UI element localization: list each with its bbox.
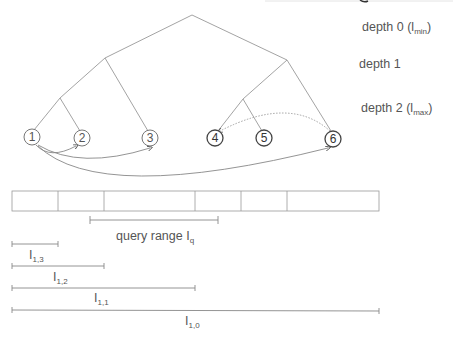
interval-label-1-0: I1,0 bbox=[185, 314, 200, 330]
svg-text:2: 2 bbox=[79, 131, 86, 145]
query-range-bar bbox=[90, 216, 218, 224]
node-4: 4 bbox=[207, 130, 223, 146]
svg-text:1: 1 bbox=[29, 130, 36, 144]
interval-label-1-2: I1,2 bbox=[53, 270, 68, 286]
arrow-1-to-2 bbox=[36, 145, 76, 153]
svg-text:6: 6 bbox=[330, 132, 337, 146]
svg-text:3: 3 bbox=[147, 131, 154, 145]
interval-label-1-3: I1,3 bbox=[29, 248, 44, 264]
arrow-6-to-4 bbox=[220, 113, 330, 131]
depth-1-label: depth 1 bbox=[359, 57, 401, 71]
node-1: 1 bbox=[24, 129, 40, 145]
svg-text:4: 4 bbox=[212, 131, 219, 145]
node-6: 6 bbox=[325, 131, 341, 147]
node-2: 2 bbox=[74, 130, 90, 146]
cropped-header-fragment bbox=[265, 0, 453, 2]
svg-text:5: 5 bbox=[261, 131, 268, 145]
tree-edges bbox=[34, 15, 331, 131]
tree-diagram: 1 2 3 4 5 6 bbox=[0, 0, 453, 344]
arrow-1-to-3 bbox=[38, 145, 150, 158]
query-range-label: query range Iq bbox=[116, 229, 194, 245]
node-5: 5 bbox=[256, 130, 272, 146]
interval-label-1-1: I1,1 bbox=[94, 291, 109, 307]
depth-2-label: depth 2 (lmax) bbox=[361, 101, 432, 117]
depth-0-label: depth 0 (lmin) bbox=[362, 20, 431, 36]
tree-nodes: 1 2 3 4 5 6 bbox=[24, 129, 341, 147]
arrow-1-to-6 bbox=[38, 146, 328, 176]
array-cells bbox=[12, 191, 379, 211]
node-3: 3 bbox=[142, 130, 158, 146]
